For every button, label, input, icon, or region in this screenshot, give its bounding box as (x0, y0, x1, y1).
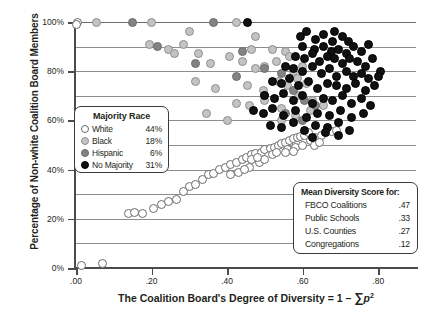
data-point-nomaj (289, 96, 298, 105)
mean-row: FBCO Coalitions.47 (301, 198, 410, 211)
y-tick-label: 20% (24, 214, 64, 224)
data-point-white (240, 165, 249, 174)
data-point-hispanic (209, 18, 218, 27)
data-point-nomaj (308, 62, 317, 71)
x-tick (152, 269, 154, 275)
data-point-black_ (225, 52, 234, 61)
legend-row: Black18% (81, 135, 162, 147)
data-point-hispanic (191, 59, 200, 68)
data-point-black_ (147, 18, 156, 27)
data-point-nomaj (338, 91, 347, 100)
legend-row: White44% (81, 123, 162, 135)
data-point-hispanic (232, 72, 241, 81)
legend-label: Hispanic (92, 148, 150, 158)
mean-row-label: Congregations (305, 239, 399, 249)
x-tick-label: .20 (132, 276, 172, 286)
data-point-black_ (243, 81, 252, 90)
mean-row-value: .27 (399, 226, 410, 236)
x-tick-label: .60 (283, 276, 323, 286)
data-point-nomaj (289, 118, 298, 127)
legend-label: Black (92, 136, 146, 146)
data-point-nomaj (313, 84, 322, 93)
mean-box-rows: FBCO Coalitions.47Public Schools.33U.S. … (301, 198, 410, 250)
data-point-black_ (202, 109, 211, 118)
data-point-nomaj (289, 64, 298, 73)
data-point-nomaj (266, 121, 275, 130)
x-tick-label: .00 (56, 276, 96, 286)
data-point-black_ (251, 32, 260, 41)
data-point-nomaj (325, 64, 334, 73)
data-point-nomaj (249, 106, 258, 115)
data-point-white (253, 153, 262, 162)
data-point-nomaj (285, 74, 294, 83)
data-point-nomaj (347, 99, 356, 108)
legend-percent: 18% (146, 136, 162, 146)
data-point-white (226, 170, 235, 179)
data-point-nomaj (334, 131, 343, 140)
data-point-black_ (191, 77, 200, 86)
data-point-nomaj (298, 67, 307, 76)
data-point-white (98, 259, 107, 268)
data-point-nomaj (357, 47, 366, 56)
mean-box-title: Mean Diversity Score for: (301, 187, 410, 197)
data-point-black_ (238, 57, 247, 66)
data-point-nomaj (311, 121, 320, 130)
data-point-black_ (170, 49, 179, 58)
data-point-nomaj (313, 109, 322, 118)
y-tick-label: 100% (24, 17, 64, 27)
data-point-nomaj (279, 111, 288, 120)
x-axis-title-prefix: The Coalition Board's Degree of Diversit… (118, 292, 354, 304)
legend-label: White (92, 124, 146, 134)
data-point-nomaj (270, 94, 279, 103)
data-point-nomaj (328, 96, 337, 105)
y-tick-label: 80% (24, 66, 64, 76)
data-point-nomaj (268, 77, 277, 86)
data-point-nomaj (308, 99, 317, 108)
scatter-chart-figure: Percentage of Non-white Coalition Board … (0, 0, 430, 316)
mean-row: Congregations.12 (301, 237, 410, 250)
data-point-white (289, 147, 298, 156)
data-point-nomaj (364, 40, 373, 49)
x-tick (227, 269, 229, 275)
data-point-nomaj (294, 81, 303, 90)
legend-swatch-hispanic-icon (81, 149, 89, 157)
data-point-black_ (206, 59, 215, 68)
data-point-white (272, 148, 281, 157)
legend-label: No Majority (92, 160, 146, 170)
data-point-nomaj (351, 79, 360, 88)
summation-symbol: ∑ (354, 290, 363, 305)
data-point-nomaj (308, 133, 317, 142)
data-point-nomaj (291, 52, 300, 61)
legend-rows: White44%Black18%Hispanic6%No Majority31% (81, 123, 162, 171)
legend-swatch-black_-icon (81, 137, 89, 145)
mean-row-value: .12 (399, 239, 410, 249)
data-point-nomaj (325, 111, 334, 120)
legend-row: No Majority31% (81, 159, 162, 171)
data-point-nomaj (296, 32, 305, 41)
data-point-nomaj (370, 81, 379, 90)
legend-row: Hispanic6% (81, 147, 162, 159)
data-point-nomaj (357, 94, 366, 103)
data-point-nomaj (323, 79, 332, 88)
x-axis-title-exponent: 2 (370, 292, 374, 299)
x-tick-label: .40 (207, 276, 247, 286)
data-point-nomaj (243, 18, 252, 27)
legend-percent: 6% (150, 148, 162, 158)
mean-row-label: U.S. Counties (305, 226, 399, 236)
data-point-black_ (247, 45, 256, 54)
data-point-black_ (92, 18, 101, 27)
mean-row-value: .33 (399, 213, 410, 223)
data-point-nomaj (332, 81, 341, 90)
legend-title: Majority Race (81, 111, 162, 121)
x-axis-title: The Coalition Board's Degree of Diversit… (76, 290, 416, 305)
data-point-nomaj (304, 77, 313, 86)
data-point-black_ (194, 49, 203, 58)
data-point-black_ (232, 18, 241, 27)
x-tick (76, 269, 78, 275)
data-point-white (138, 209, 147, 218)
data-point-hispanic (238, 47, 247, 56)
legend-majority-race: Majority Race White44%Black18%Hispanic6%… (74, 106, 169, 173)
legend-percent: 31% (146, 160, 162, 170)
data-point-nomaj (368, 54, 377, 63)
data-point-nomaj (291, 106, 300, 115)
